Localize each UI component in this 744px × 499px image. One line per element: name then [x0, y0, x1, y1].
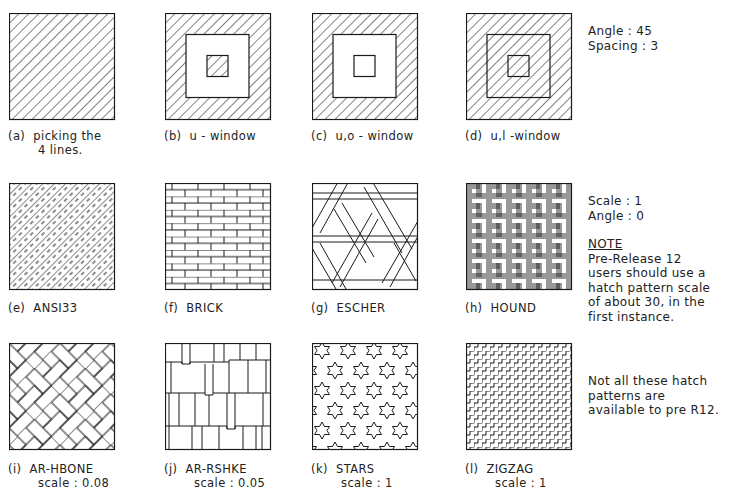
hatch-panel-h [466, 183, 573, 291]
availability-note: Not all these hatch patterns are availab… [588, 374, 719, 418]
hatch-panel-j [165, 343, 272, 451]
hatch-ansi33-icon [9, 183, 116, 291]
note-line: available to pre R12. [588, 403, 719, 417]
caption-i: (i) AR-HBONEscale : 0.08 [8, 462, 109, 490]
caption-h-line1: (h) HOUND [465, 301, 536, 315]
caption-e-line1: (e) ANSI33 [8, 301, 78, 315]
caption-g: (g) ESCHER [311, 301, 385, 315]
caption-b: (b) u - window [164, 129, 256, 143]
caption-c: (c) u,o - window [311, 129, 413, 143]
hatch-panel-a [9, 13, 116, 121]
caption-d-line1: (d) u,l -window [465, 129, 561, 143]
hatch-panel-l [466, 343, 573, 451]
caption-e: (e) ANSI33 [8, 301, 78, 315]
caption-j-line1: (j) AR-RSHKE [164, 462, 247, 476]
hatch-panel-c [312, 13, 419, 121]
hatch-ar-hbone-icon [9, 343, 116, 451]
caption-l-line2: scale : 1 [465, 476, 547, 490]
row2-settings: Scale : 1 Angle : 0 [588, 194, 644, 223]
scale-setting: Scale : 1 [588, 194, 642, 208]
note-line: first instance. [588, 310, 674, 324]
note-line: Not all these hatch [588, 374, 707, 388]
hatch-panel-f [165, 183, 272, 291]
note-heading: NOTE [588, 237, 623, 251]
hatch-panel-g [312, 183, 419, 291]
hatch-panel-k [312, 343, 419, 451]
hatch-panel-d [466, 13, 573, 121]
note-line: Pre-Release 12 [588, 252, 682, 266]
note-line: users should use a [588, 266, 706, 280]
caption-i-line2: scale : 0.08 [8, 476, 109, 490]
caption-k: (k) STARSscale : 1 [311, 462, 393, 490]
hatch-panel-i [9, 343, 116, 451]
caption-j: (j) AR-RSHKEscale : 0.05 [164, 462, 265, 490]
caption-k-line2: scale : 1 [311, 476, 393, 490]
release-note: NOTE Pre-Release 12 users should use a h… [588, 237, 710, 324]
caption-f-line1: (f) BRICK [164, 301, 223, 315]
note-line: hatch pattern scale [588, 281, 710, 295]
hatch-ar-rshke-icon [165, 343, 272, 451]
hatch-stars-icon [312, 343, 419, 451]
caption-d: (d) u,l -window [465, 129, 561, 143]
hatch-zigzag-icon [466, 343, 573, 451]
hatch-full-square-icon [9, 13, 116, 121]
hatch-ul-window-icon [466, 13, 573, 121]
hatch-uo-window-icon [312, 13, 419, 121]
caption-a-line2: 4 lines. [8, 143, 102, 157]
hatch-panel-b [165, 13, 272, 121]
hatch-hound-icon [466, 183, 573, 291]
hatch-escher-icon [312, 183, 419, 291]
caption-k-line1: (k) STARS [311, 462, 375, 476]
hatch-brick-icon [165, 183, 272, 291]
note-line: patterns are [588, 389, 665, 403]
caption-f: (f) BRICK [164, 301, 223, 315]
caption-h: (h) HOUND [465, 301, 536, 315]
row1-settings: Angle : 45 Spacing : 3 [588, 24, 658, 53]
caption-l-line1: (l) ZIGZAG [465, 462, 534, 476]
caption-a: (a) picking the4 lines. [8, 129, 102, 157]
caption-g-line1: (g) ESCHER [311, 301, 385, 315]
spacing-setting: Spacing : 3 [588, 39, 658, 53]
caption-a-line1: (a) picking the [8, 129, 102, 143]
caption-j-line2: scale : 0.05 [164, 476, 265, 490]
caption-c-line1: (c) u,o - window [311, 129, 413, 143]
caption-i-line1: (i) AR-HBONE [8, 462, 93, 476]
note-line: of about 30, in the [588, 295, 705, 309]
hatch-panel-e [9, 183, 116, 291]
angle-setting-row2: Angle : 0 [588, 209, 644, 223]
hatch-u-window-icon [165, 13, 272, 121]
angle-setting: Angle : 45 [588, 24, 652, 38]
caption-l: (l) ZIGZAGscale : 1 [465, 462, 547, 490]
caption-b-line1: (b) u - window [164, 129, 256, 143]
